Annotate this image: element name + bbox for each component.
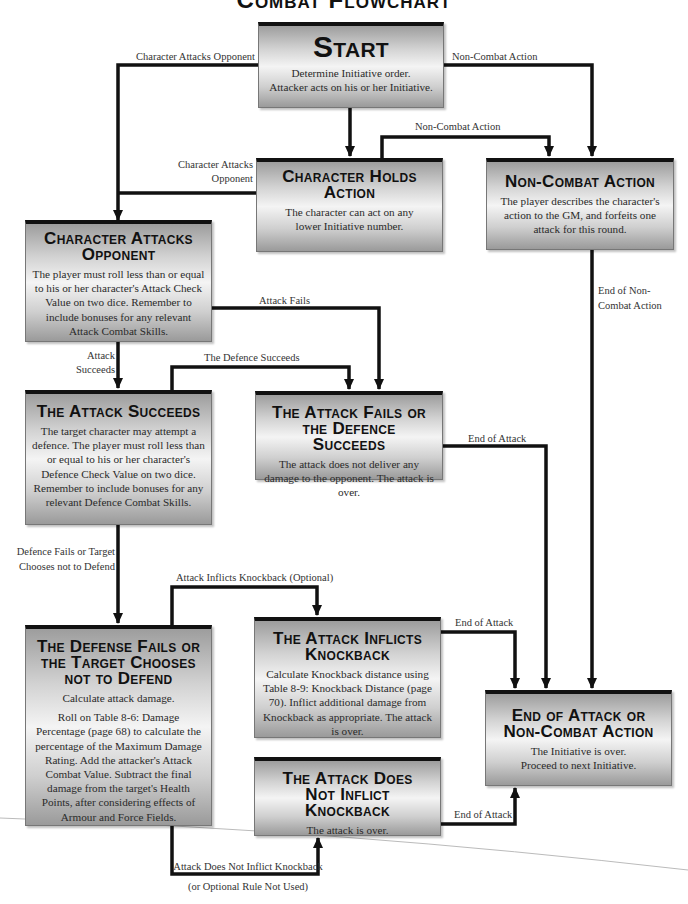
node-text: The player must roll less than or equal … bbox=[32, 267, 205, 338]
node-title: End of Attack or Non-Combat Action bbox=[492, 708, 665, 740]
node-body: The target character may attempt a defen… bbox=[32, 424, 205, 509]
node-title: The Attack Succeeds bbox=[32, 404, 205, 420]
node-body: The attack does not deliver any damage t… bbox=[262, 457, 436, 500]
node-text: The attack is over. bbox=[261, 823, 434, 837]
node-character-attacks-opponent: Character Attacks Opponent The player mu… bbox=[25, 220, 212, 342]
node-end-of-attack: End of Attack or Non-Combat Action The I… bbox=[485, 690, 672, 786]
edge-label-start-to-attacks: Character Attacks Opponent bbox=[136, 50, 255, 63]
node-text: Calculate attack damage. bbox=[32, 691, 205, 705]
edge-label-holds-to-attacks: Character Attacks Opponent bbox=[170, 158, 253, 186]
node-character-holds-action: Character Holds Action The character can… bbox=[256, 158, 443, 252]
node-body: The player must roll less than or equal … bbox=[32, 267, 205, 338]
node-body: The Initiative is over. Proceed to next … bbox=[492, 744, 665, 772]
node-body: The character can act on any lower Initi… bbox=[263, 205, 436, 233]
node-text: Proceed to next Initiative. bbox=[492, 758, 665, 772]
node-non-combat-action: Non-Combat Action The player describes t… bbox=[486, 158, 674, 250]
node-text: The player describes the character's act… bbox=[493, 194, 667, 237]
edge-label-noncombat-to-end: End of Non-Combat Action bbox=[598, 283, 678, 313]
edge-label-no-knockback: Attack Does Not Inflict Knockback bbox=[168, 860, 328, 873]
edge-label-knockback-to-end: End of Attack bbox=[455, 616, 513, 629]
node-title: Character Attacks Opponent bbox=[32, 231, 205, 263]
edge-label-attack-succeeds: Attack Succeeds bbox=[70, 349, 115, 377]
edge-label-no-knockback-note: (or Optional Rule Not Used) bbox=[168, 880, 328, 893]
edge-label-text: Defence Fails or Target Chooses not to D… bbox=[17, 546, 115, 572]
node-text: Determine Initiative order. bbox=[265, 66, 437, 80]
node-text: The character can act on any lower Initi… bbox=[263, 205, 436, 233]
node-title: Start bbox=[265, 32, 437, 62]
node-start: Start Determine Initiative order. Attack… bbox=[258, 22, 444, 108]
node-title: The Attack Fails or the Defence Succeeds bbox=[262, 405, 436, 453]
node-defense-fails: The Defense Fails or the Target Chooses … bbox=[25, 625, 212, 826]
edge-label-text: Character Attacks Opponent bbox=[178, 159, 253, 184]
edge-label-start-to-noncombat: Non-Combat Action bbox=[452, 50, 537, 63]
node-text: Calculate Knockback distance using Table… bbox=[261, 667, 434, 738]
node-attack-succeeds: The Attack Succeeds The target character… bbox=[25, 390, 212, 525]
node-title: Non-Combat Action bbox=[493, 174, 667, 190]
edge-label-holds-to-noncombat: Non-Combat Action bbox=[415, 120, 500, 133]
edge-label-inflicts-knockback: Attack Inflicts Knockback (Optional) bbox=[176, 571, 333, 584]
node-text: The Initiative is over. bbox=[492, 744, 665, 758]
node-body: Determine Initiative order. Attacker act… bbox=[265, 66, 437, 94]
node-title: The Defense Fails or the Target Chooses … bbox=[32, 639, 205, 687]
edge-label-text: End of Non-Combat Action bbox=[598, 285, 662, 311]
node-attack-inflicts-knockback: The Attack Inflicts Knockback Calculate … bbox=[254, 617, 441, 738]
node-text: The target character may attempt a defen… bbox=[32, 424, 205, 509]
edge-label-defence-succeeds: The Defence Succeeds bbox=[204, 351, 300, 364]
node-text: The attack does not deliver any damage t… bbox=[262, 457, 436, 500]
node-body: Calculate Knockback distance using Table… bbox=[261, 667, 434, 738]
node-body: Calculate attack damage. Roll on Table 8… bbox=[32, 691, 205, 824]
node-text: Attacker acts on his or her Initiative. bbox=[265, 80, 437, 94]
edge-label-no-knockback-to-end: End of Attack bbox=[454, 808, 512, 821]
edge-label-fails-to-end: End of Attack bbox=[468, 432, 526, 445]
node-attack-does-not-inflict-knockback: The Attack Does Not Inflict Knockback Th… bbox=[254, 757, 441, 836]
edge-label-text: Attack Succeeds bbox=[76, 350, 115, 375]
node-title: Character Holds Action bbox=[263, 169, 436, 201]
node-body: The player describes the character's act… bbox=[493, 194, 667, 237]
edge-label-attack-fails: Attack Fails bbox=[259, 294, 310, 307]
node-text: Roll on Table 8-6: Damage Percentage (pa… bbox=[32, 710, 205, 824]
node-title: The Attack Inflicts Knockback bbox=[261, 631, 434, 663]
node-body: The attack is over. bbox=[261, 823, 434, 837]
edge-label-defence-fails: Defence Fails or Target Chooses not to D… bbox=[0, 544, 115, 574]
node-title: The Attack Does Not Inflict Knockback bbox=[261, 771, 434, 819]
node-attack-fails-or-defence-succeeds: The Attack Fails or the Defence Succeeds… bbox=[255, 391, 443, 480]
